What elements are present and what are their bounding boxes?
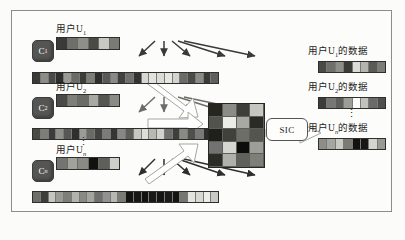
strip-cell	[165, 129, 173, 139]
strip-cell	[327, 139, 335, 149]
strip-cell	[99, 158, 110, 169]
matrix-cell	[250, 129, 264, 142]
strip-cell	[80, 192, 88, 202]
combined-signal-matrix	[208, 103, 265, 168]
strip-cell	[344, 139, 352, 149]
strip-cell	[87, 192, 95, 202]
strip-cell	[149, 73, 157, 83]
user-packet-strip-2	[56, 94, 120, 107]
sic-processor[interactable]: SIC	[266, 118, 308, 141]
cluster-box-2[interactable]: C2	[32, 97, 54, 119]
matrix-cell	[237, 117, 251, 130]
strip-cell	[134, 192, 142, 202]
strip-cell	[336, 62, 344, 72]
strip-cell	[89, 95, 100, 106]
strip-cell	[336, 139, 344, 149]
strip-cell	[89, 158, 100, 169]
strip-cell	[95, 192, 103, 202]
strip-cell	[188, 192, 196, 202]
user-label-n: 用户Un	[56, 146, 86, 157]
strip-cell	[211, 192, 218, 202]
matrix-cell	[237, 154, 251, 167]
output-label-2: 用户U2的数据	[308, 83, 368, 94]
strip-cell	[110, 158, 120, 169]
strip-cell	[99, 38, 110, 49]
strip-cell	[180, 73, 188, 83]
matrix-cell	[250, 117, 264, 130]
strip-cell	[361, 98, 369, 108]
strip-cell	[361, 139, 369, 149]
strip-cell	[180, 192, 188, 202]
strip-cell	[49, 129, 57, 139]
strip-cell	[41, 129, 49, 139]
strip-cell	[57, 38, 68, 49]
strip-cell	[336, 98, 344, 108]
strip-cell	[56, 192, 64, 202]
strip-cell	[134, 73, 142, 83]
strip-cell	[111, 129, 119, 139]
strip-cell	[111, 192, 119, 202]
strip-cell	[211, 73, 218, 83]
strip-cell	[118, 73, 126, 83]
matrix-cell	[223, 142, 237, 155]
matrix-cell	[223, 154, 237, 167]
strip-cell	[33, 73, 41, 83]
strip-cell	[157, 73, 165, 83]
strip-cell	[118, 129, 126, 139]
strip-cell	[173, 73, 181, 83]
user-label-2: 用户U2	[56, 83, 86, 94]
arrow-group-n-to-matrix	[145, 144, 198, 184]
strip-cell	[56, 129, 64, 139]
cluster-box-n[interactable]: Cn	[32, 160, 54, 182]
matrix-cell	[223, 104, 237, 117]
strip-cell	[41, 192, 49, 202]
strip-cell	[41, 73, 49, 83]
strip-cell	[126, 73, 134, 83]
strip-cell	[369, 98, 377, 108]
strip-cell	[103, 192, 111, 202]
strip-cell	[78, 158, 89, 169]
strip-cell	[157, 192, 165, 202]
strip-cell	[319, 98, 327, 108]
strip-cell	[165, 192, 173, 202]
strip-cell	[204, 192, 212, 202]
strip-cell	[126, 129, 134, 139]
strip-cell	[68, 95, 79, 106]
strip-cell	[142, 192, 150, 202]
strip-cell	[68, 38, 79, 49]
strip-cell	[353, 139, 361, 149]
strip-cell	[378, 62, 385, 72]
strip-cell	[87, 73, 95, 83]
output-label-1: 用户U1的数据	[308, 47, 368, 58]
matrix-cell	[250, 104, 264, 117]
matrix-cell	[250, 142, 264, 155]
composite-frame-strip-2	[32, 128, 219, 140]
strip-cell	[157, 129, 165, 139]
cluster-box-1[interactable]: C1	[32, 40, 54, 62]
matrix-cell	[209, 142, 223, 155]
strip-cell	[126, 192, 134, 202]
strip-cell	[78, 38, 89, 49]
strip-cell	[149, 192, 157, 202]
strip-cell	[327, 98, 335, 108]
strip-cell	[204, 73, 212, 83]
sic-label: SIC	[279, 125, 294, 135]
strip-cell	[95, 129, 103, 139]
strip-cell	[64, 192, 72, 202]
strip-cell	[64, 129, 72, 139]
strip-cell	[173, 129, 181, 139]
strip-cell	[111, 73, 119, 83]
matrix-cell	[209, 117, 223, 130]
matrix-cell	[209, 129, 223, 142]
strip-cell	[118, 192, 126, 202]
strip-cell	[327, 62, 335, 72]
matrix-cell	[223, 129, 237, 142]
strip-cell	[369, 139, 377, 149]
strip-cell	[196, 73, 204, 83]
group-ellipsis: ⋮	[78, 139, 88, 143]
strip-cell	[165, 73, 173, 83]
output-label-n: 用户Un的数据	[308, 124, 368, 135]
strip-cell	[188, 73, 196, 83]
strip-cell	[99, 95, 110, 106]
strip-cell	[361, 62, 369, 72]
